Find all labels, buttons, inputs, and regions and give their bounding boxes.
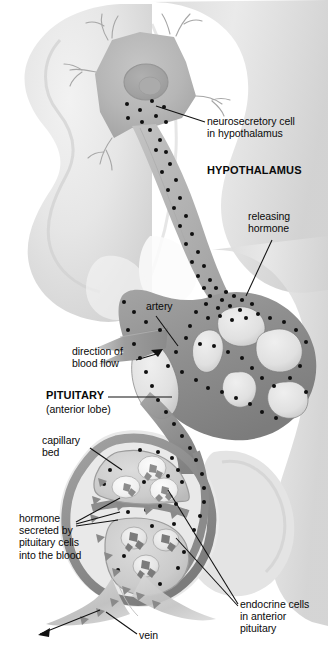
vein-label: vein bbox=[139, 629, 158, 641]
anterior-lobe-label: (anterior lobe) bbox=[46, 403, 111, 415]
nucleolus bbox=[139, 77, 161, 95]
anatomy-figure: neurosecretory cell in hypothalamus HYPO… bbox=[0, 0, 328, 651]
artery-label: artery bbox=[146, 300, 173, 312]
neurosecretory-cell-label: neurosecretory cell in hypothalamus bbox=[207, 115, 295, 139]
endocrine-cells-label: endocrine cells in anterior pituitary bbox=[240, 598, 309, 635]
direction-of-blood-flow-label: direction of blood flow bbox=[72, 345, 123, 369]
releasing-hormone-label: releasing hormone bbox=[248, 210, 290, 234]
capillary-bed-label: capillary bed bbox=[42, 434, 80, 458]
pituitary-label: PITUITARY bbox=[46, 389, 104, 401]
hormone-secreted-label: hormone secreted by pituitary cells into… bbox=[19, 512, 81, 561]
hypothalamus-label: HYPOTHALAMUS bbox=[207, 164, 302, 176]
vein-outflow-arrowhead bbox=[38, 628, 50, 637]
